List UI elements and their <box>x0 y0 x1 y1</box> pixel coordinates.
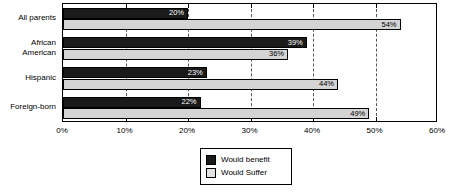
tick-bottom-50% <box>376 117 377 121</box>
legend-item-would-suffer: Would Suffer <box>206 166 286 179</box>
bar-foreign-born-would-suffer: 49% <box>63 108 369 119</box>
x-tick-label-50%: 50% <box>366 126 382 135</box>
tick-top-40% <box>313 4 314 8</box>
x-tick-label-20%: 20% <box>179 126 195 135</box>
bar-hispanic-would-benefit: 23% <box>63 67 207 78</box>
bar-all-parents-would-suffer: 54% <box>63 19 401 30</box>
bar-value-label: 20% <box>169 9 184 17</box>
bar-value-label: 49% <box>350 110 365 118</box>
x-axis: 0%10%20%30%40%50%60% <box>62 122 437 138</box>
bar-chart: All parents African American Hispanic Fo… <box>0 0 450 193</box>
x-tick-label-60%: 60% <box>429 126 445 135</box>
legend-item-would-benefit: Would benefit <box>206 153 286 166</box>
bar-value-label: 54% <box>381 21 396 29</box>
bar-value-label: 36% <box>269 50 284 58</box>
category-label-foreign-born: Foreign-born <box>0 102 56 112</box>
legend-swatch-light-gray-square-icon <box>206 168 216 178</box>
legend-label-would-suffer: Would Suffer <box>221 168 267 177</box>
category-label-hispanic: Hispanic <box>0 73 56 83</box>
bar-foreign-born-would-benefit: 22% <box>63 97 201 108</box>
x-tick-label-40%: 40% <box>304 126 320 135</box>
bar-value-label: 39% <box>288 39 303 47</box>
bar-hispanic-would-suffer: 44% <box>63 79 338 90</box>
bar-value-label: 22% <box>181 98 196 106</box>
legend-swatch-black-square-icon <box>206 155 216 165</box>
x-tick-label-30%: 30% <box>241 126 257 135</box>
x-tick-label-10%: 10% <box>116 126 132 135</box>
chart-legend: Would benefit Would Suffer <box>200 148 292 185</box>
bar-value-label: 44% <box>319 80 334 88</box>
x-tick-label-0%: 0% <box>56 126 68 135</box>
bar-african-american-would-benefit: 39% <box>63 37 307 48</box>
tick-top-30% <box>251 4 252 8</box>
tick-top-20% <box>188 4 189 8</box>
category-label-african-american: African American <box>0 38 56 57</box>
bar-all-parents-would-benefit: 20% <box>63 8 188 19</box>
legend-label-would-benefit: Would benefit <box>221 155 270 164</box>
bar-african-american-would-suffer: 36% <box>63 49 288 60</box>
bar-value-label: 23% <box>188 69 203 77</box>
category-label-all-parents: All parents <box>0 13 56 23</box>
plot-area: 20%54%39%36%23%44%22%49% <box>62 3 437 122</box>
category-axis-labels: All parents African American Hispanic Fo… <box>0 3 59 122</box>
tick-top-50% <box>376 4 377 8</box>
